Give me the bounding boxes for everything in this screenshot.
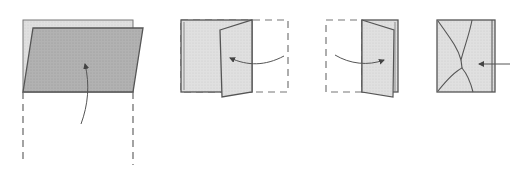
folding-diagram [0,0,518,177]
front-flap [23,28,143,92]
step-1 [23,20,143,165]
folding-flap [220,20,252,97]
folding-flap [362,20,394,97]
step-3 [326,20,398,97]
step-2 [181,20,288,97]
dashed-outline [326,20,362,92]
step-4 [437,20,510,92]
